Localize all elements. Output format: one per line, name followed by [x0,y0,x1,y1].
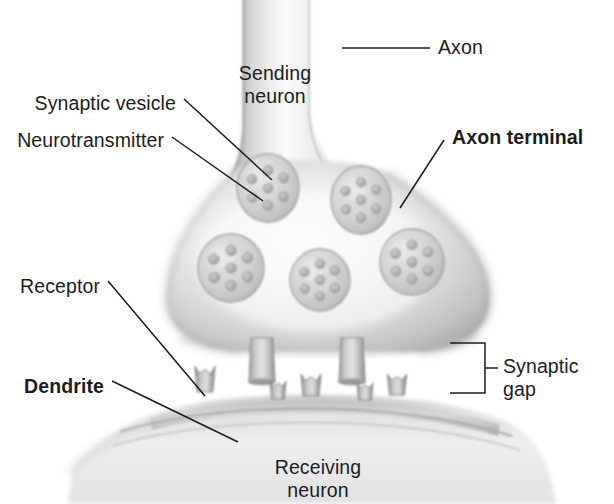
neurotransmitter-dot [209,254,219,264]
neurotransmitter-dot [391,266,401,276]
neurotransmitter-dot [242,253,252,263]
neurotransmitter-dot [390,248,400,258]
neurotransmitter-dot [315,275,324,284]
neurotransmitter-dot [341,187,350,196]
neurotransmitter-dot [341,205,350,214]
label-axon-terminal: Axon terminal [452,126,583,149]
neurotransmitter-dot [300,284,309,293]
receptors-group [195,366,407,400]
label-dendrite: Dendrite [0,375,104,398]
neurotransmitter-dot [263,201,273,211]
synaptic-vesicle [331,166,391,234]
neurotransmitter-dot [226,245,236,255]
release-site [249,338,275,386]
label-synaptic-vesicle: Synaptic vesicle [0,92,176,115]
neurotransmitter-dot [330,283,339,292]
synaptic-vesicle [380,229,444,295]
label-synaptic-gap: Synaptic gap [503,355,579,401]
receptor [388,374,407,395]
synaptic-gap-bracket [450,343,498,393]
label-receiving-neuron: Receiving neuron [208,456,428,502]
neurotransmitter-dot [247,174,257,184]
neurotransmitter-dot [407,240,417,250]
neurotransmitter-dot [330,266,339,275]
neurotransmitter-dot [279,192,289,202]
neurotransmitter-dot [226,281,236,291]
neurotransmitter-dot [371,204,380,213]
label-axon: Axon [438,36,483,59]
neurotransmitter-dot [315,259,324,268]
neurotransmitter-dot [279,173,289,183]
neurotransmitter-dot [356,195,365,204]
neurotransmitter-dot [300,267,309,276]
neurotransmitter-dot [356,213,365,222]
neurotransmitter-dot [242,272,252,282]
neurotransmitter-dot [371,185,380,194]
neurotransmitter-dot [209,272,219,282]
label-receptor: Receptor [0,275,100,298]
neurotransmitter-dot [423,266,433,276]
neurotransmitter-dot [423,247,433,257]
neurotransmitter-dot [407,257,417,267]
release-site [339,338,365,386]
neurotransmitter-dot [356,178,365,187]
neurotransmitter-dot [407,274,417,284]
synapse-diagram: AxonSending neuronSynaptic vesicleNeurot… [0,0,614,504]
receptor [357,383,373,400]
synaptic-vesicle [290,249,350,311]
neurotransmitter-dot [315,291,324,300]
neurotransmitter-dot [263,183,273,193]
label-sending-neuron: Sending neuron [165,62,385,108]
label-neurotransmitter: Neurotransmitter [0,129,164,152]
synaptic-vesicle [237,154,299,222]
neurotransmitter-dot [226,263,236,273]
synaptic-vesicle [198,234,264,302]
receptor [301,374,321,396]
